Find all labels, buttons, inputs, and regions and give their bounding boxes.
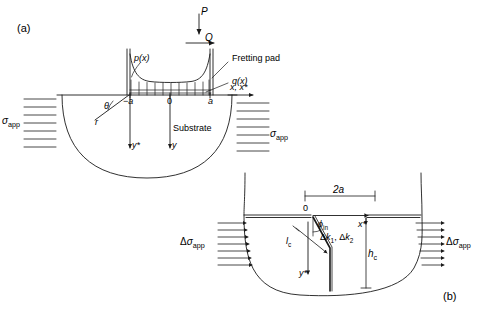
contact-left-edge-label: −a (123, 96, 133, 106)
panel-b-x-star-label: x* (358, 219, 366, 229)
delta-sigma-app-left-label: Δσapp (180, 236, 205, 250)
y-axis-label: y (172, 140, 177, 150)
panel-b-y-star-label: y* (299, 268, 307, 278)
contact-origin-label: 0 (167, 96, 172, 106)
load-Q-label: Q (205, 32, 213, 43)
delta-sigma-right-hatches (416, 223, 444, 265)
panel-b-tag: (b) (443, 290, 456, 302)
contact-width-label: 2a (333, 184, 344, 195)
delta-sigma-left-hatches (218, 223, 252, 265)
fretting-pad-label: Fretting pad (232, 53, 280, 63)
panel-b-origin-label: 0 (303, 203, 308, 213)
substrate-body-outline (62, 95, 232, 178)
substrate-label: Substrate (173, 123, 212, 133)
delta-sigma-app-right-label: Δσapp (446, 236, 471, 250)
sigma-app-left-label: σapp (2, 115, 20, 129)
stress-intensity-factors-label: Δk1, Δk2 (320, 232, 353, 244)
contact-right-edge-label: a (208, 96, 213, 106)
pad-label-leader (212, 62, 228, 78)
panel-a-tag: (a) (17, 22, 30, 34)
crack-length-label: lc (286, 236, 291, 248)
panel-b-surface-right (367, 215, 421, 218)
sigma-app-left-hatches (24, 99, 56, 147)
sigma-app-right-hatches (237, 103, 269, 151)
polar-r-label: r (95, 117, 98, 127)
crack-depth-label: hc (368, 248, 377, 262)
x-axis-label: x, x* (230, 82, 248, 92)
load-P-label: P (201, 6, 208, 17)
pressure-distribution-label: p(x) (134, 53, 150, 63)
fretting-fatigue-figure (0, 0, 480, 317)
y-star-axis-label: y* (132, 140, 140, 150)
sigma-app-right-label: σapp (270, 128, 288, 142)
crack-angle-label: ϕin (318, 219, 328, 231)
polar-theta-label: θ (104, 101, 109, 111)
panel-b-surface-left (244, 215, 311, 218)
